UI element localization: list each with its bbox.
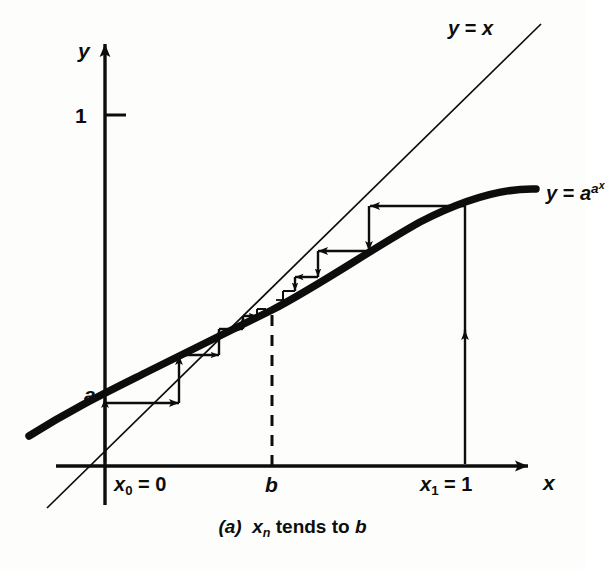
figure-caption: (a) xn tends to b	[0, 516, 585, 540]
y-intercept-label-a: a	[84, 384, 96, 405]
caption-target: b	[355, 516, 367, 537]
identity-line	[47, 24, 541, 508]
caption-var: x	[252, 516, 263, 537]
cobweb-ascending	[105, 309, 266, 403]
x0-sub: 0	[125, 483, 132, 498]
identity-lhs: y	[448, 17, 459, 39]
x1-value: = 1	[444, 473, 472, 495]
caption-text: tends to	[270, 516, 354, 537]
x0-value: = 0	[138, 473, 166, 495]
y-tick-label-one: 1	[75, 105, 87, 126]
x0-label: x0 = 0	[114, 474, 166, 497]
map-eq: =	[563, 182, 575, 204]
x1-var: x	[420, 473, 431, 495]
identity-rhs: x	[482, 17, 493, 39]
x-axis-label: x	[543, 472, 555, 493]
map-exponent: ax	[591, 181, 604, 196]
map-exp-base: a	[591, 181, 599, 196]
map-lhs: y	[546, 182, 557, 204]
caption-prefix: (a)	[218, 516, 241, 537]
x1-sub: 1	[431, 483, 438, 498]
map-base: a	[580, 182, 591, 204]
identity-eq: =	[465, 17, 477, 39]
fixed-point-label: b	[265, 474, 278, 495]
map-curve-label: y = aax	[546, 180, 605, 203]
identity-line-label: y = x	[448, 18, 493, 38]
map-exp-exp: x	[599, 179, 605, 191]
y-axis-label: y	[78, 40, 90, 61]
x0-var: x	[114, 473, 125, 495]
x1-label: x1 = 1	[420, 474, 472, 497]
